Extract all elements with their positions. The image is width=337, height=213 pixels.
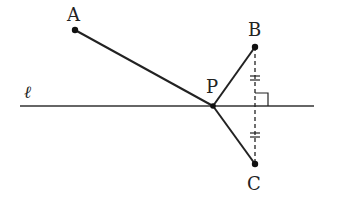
- segment-cp: [213, 106, 255, 164]
- point-p: [210, 103, 216, 109]
- geometry-diagram: A B C P ℓ: [0, 0, 337, 213]
- point-c: [252, 161, 258, 167]
- segment-ap: [75, 30, 213, 106]
- label-c: C: [247, 175, 261, 193]
- point-b: [252, 44, 258, 50]
- label-p: P: [206, 78, 218, 96]
- right-angle-mark: [255, 93, 268, 106]
- label-a: A: [67, 6, 80, 24]
- diagram-svg: [0, 0, 337, 213]
- label-line-l: ℓ: [24, 84, 31, 101]
- point-a: [72, 27, 78, 33]
- label-b: B: [248, 21, 261, 39]
- segment-bp: [213, 47, 255, 106]
